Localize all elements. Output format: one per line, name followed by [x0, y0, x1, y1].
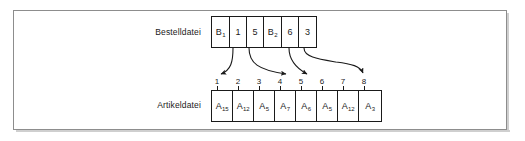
- artikeldatei-index: 7: [338, 77, 348, 86]
- artikeldatei-row: A15 A12 A5 A7 A6 A5 A12 A3: [211, 90, 382, 122]
- artikeldatei-index: 5: [296, 77, 306, 86]
- cell-subscript: 3: [372, 106, 375, 112]
- cell-base: A: [259, 102, 265, 111]
- bestelldatei-cell: 5: [247, 17, 264, 47]
- bestelldatei-row: B1 1 5 B2 6 3: [211, 16, 317, 48]
- cell-base: A: [237, 102, 243, 111]
- artikeldatei-cell: A3: [359, 91, 381, 121]
- bestelldatei-cell: 3: [299, 17, 316, 47]
- bestelldatei-cell: 1: [230, 17, 247, 47]
- cell-base: 6: [287, 28, 292, 37]
- artikeldatei-cell: A12: [338, 91, 359, 121]
- frame-shadow-right: [507, 13, 509, 132]
- artikeldatei-index: 4: [275, 77, 285, 86]
- cell-base: 5: [252, 28, 257, 37]
- cell-subscript: 15: [222, 106, 228, 112]
- cell-base: B: [268, 28, 274, 37]
- artikeldatei-cell: A6: [296, 91, 317, 121]
- artikeldatei-index: 1: [212, 77, 222, 86]
- artikeldatei-label: Artikeldatei: [105, 100, 201, 110]
- cell-base: A: [301, 102, 307, 111]
- cell-subscript: 5: [266, 106, 269, 112]
- artikeldatei-index: 6: [317, 77, 327, 86]
- artikeldatei-cell: A5: [254, 91, 275, 121]
- cell-base: B: [216, 28, 222, 37]
- artikeldatei-index: 3: [254, 77, 264, 86]
- cell-base: A: [216, 102, 222, 111]
- frame-shadow-bottom: [16, 130, 510, 132]
- artikeldatei-cell: A12: [233, 91, 254, 121]
- cell-subscript: 2: [274, 32, 277, 38]
- artikeldatei-cell: A15: [212, 91, 233, 121]
- cell-base: A: [280, 102, 286, 111]
- artikeldatei-index: 2: [233, 77, 243, 86]
- artikeldatei-cell: A7: [275, 91, 296, 121]
- artikeldatei-cell: A5: [317, 91, 338, 121]
- bestelldatei-cell: B2: [264, 17, 282, 47]
- cell-subscript: 5: [329, 106, 332, 112]
- cell-base: A: [322, 102, 328, 111]
- cell-base: 1: [235, 28, 240, 37]
- cell-base: A: [342, 102, 348, 111]
- cell-base: 3: [305, 28, 310, 37]
- bestelldatei-label: Bestelldatei: [105, 27, 201, 37]
- cell-subscript: 1: [222, 32, 225, 38]
- artikeldatei-index: 8: [359, 77, 369, 86]
- bestelldatei-cell: 6: [282, 17, 299, 47]
- cell-subscript: 12: [243, 106, 249, 112]
- figure-container: Bestelldatei Artikeldatei B1 1 5 B2 6 3 …: [0, 0, 525, 141]
- cell-base: A: [365, 102, 371, 111]
- cell-subscript: 7: [287, 106, 290, 112]
- bestelldatei-cell: B1: [212, 17, 230, 47]
- cell-subscript: 6: [308, 106, 311, 112]
- cell-subscript: 12: [348, 106, 354, 112]
